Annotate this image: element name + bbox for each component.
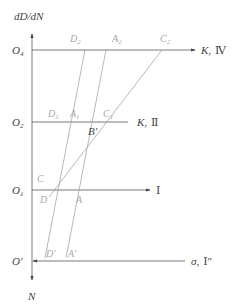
point-A2: A2 — [111, 33, 122, 46]
origin-oprime: O' — [12, 255, 23, 267]
point-C1: C1 — [103, 108, 113, 121]
label-line-IV: K,Ⅳ — [200, 44, 227, 56]
point-Bprime: B' — [88, 125, 98, 137]
point-D2: D2 — [69, 33, 81, 46]
origin-o2: O2 — [12, 116, 24, 130]
axis-y-bottom-label: N — [27, 290, 36, 302]
fatigue-diagram: dD/dN N O4 O2 O1 O' K,Ⅳ K,Ⅱ Ⅰ σ,Ⅰ″ D2 A2… — [0, 0, 240, 308]
origin-o1: O1 — [12, 184, 23, 198]
point-D: D — [39, 194, 48, 205]
point-A1: A1 — [69, 108, 80, 121]
label-line-II: K,Ⅱ — [136, 116, 159, 128]
point-D1: D1 — [47, 108, 59, 121]
origin-o4: O4 — [12, 44, 24, 58]
point-C: C — [37, 173, 44, 184]
point-A: A — [75, 194, 83, 205]
point-Dprime: D' — [45, 248, 56, 259]
point-Aprime: A' — [67, 248, 77, 259]
line-D — [45, 50, 85, 258]
axis-y-label: dD/dN — [14, 10, 44, 22]
point-C2: C2 — [160, 33, 171, 46]
line-A — [66, 50, 106, 258]
label-line-sigma: σ,Ⅰ″ — [191, 255, 212, 267]
label-line-I: Ⅰ — [156, 184, 160, 196]
